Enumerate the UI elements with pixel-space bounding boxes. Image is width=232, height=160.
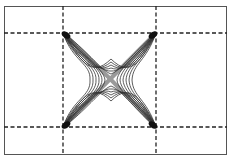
figure-canvas (0, 0, 232, 160)
outer-border (5, 7, 227, 155)
dashed-grid (4, 6, 227, 155)
x-contour-diagram (0, 0, 232, 160)
